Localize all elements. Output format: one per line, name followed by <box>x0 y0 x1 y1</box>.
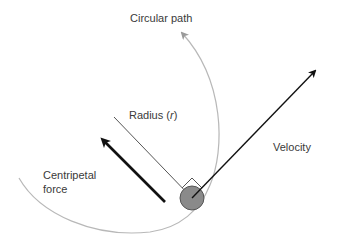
centripetal-force-diagram: Circular path Radius (r) Velocity Centri… <box>0 0 337 242</box>
centripetal-force-arrow <box>104 141 165 202</box>
radius-label-suffix: ) <box>174 109 178 121</box>
circular-path-label: Circular path <box>130 12 192 24</box>
velocity-label: Velocity <box>273 141 311 153</box>
radius-label-prefix: Radius ( <box>129 109 170 121</box>
velocity-arrow <box>192 71 315 198</box>
centripetal-force-label-line2: force <box>43 183 67 195</box>
radius-label: Radius (r) <box>129 109 177 121</box>
radius-line <box>114 117 192 198</box>
centripetal-force-label-line1: Centripetal <box>43 169 96 181</box>
